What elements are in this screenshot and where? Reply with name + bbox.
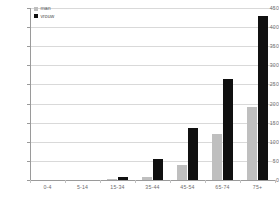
- bar-vrouw[interactable]: [223, 79, 233, 180]
- x-axis-tick-mark: [240, 180, 241, 183]
- x-axis-labels: 0-45-1415-3435-4445-5465-7475+: [30, 184, 275, 190]
- legend-label-man: man: [41, 5, 51, 13]
- x-axis-tick-mark: [100, 180, 101, 183]
- x-axis-tick-mark: [170, 180, 171, 183]
- legend-item-vrouw[interactable]: vrouw: [34, 13, 54, 21]
- x-axis-tick-label: 15-34: [100, 184, 135, 190]
- bar-group: [170, 8, 205, 180]
- x-axis-tick-mark: [30, 180, 31, 183]
- x-axis-line: [30, 180, 275, 181]
- chart-legend: man vrouw: [34, 5, 54, 20]
- bar-man[interactable]: [142, 177, 152, 180]
- bar-vrouw[interactable]: [118, 177, 128, 180]
- bar-man[interactable]: [107, 179, 117, 180]
- bar-groups: [30, 8, 275, 180]
- x-axis-tick-mark: [275, 180, 276, 183]
- legend-label-vrouw: vrouw: [41, 13, 55, 21]
- x-axis-tick-mark: [205, 180, 206, 183]
- legend-swatch-man-icon: [34, 7, 38, 11]
- bar-vrouw[interactable]: [153, 159, 163, 180]
- bar-man[interactable]: [212, 134, 222, 180]
- x-axis-tick-mark: [65, 180, 66, 183]
- x-axis-tick-label: 75+: [240, 184, 275, 190]
- x-axis-tick-mark: [135, 180, 136, 183]
- x-axis-tick-label: 0-4: [30, 184, 65, 190]
- bar-vrouw[interactable]: [188, 128, 198, 180]
- bar-group: [30, 8, 65, 180]
- legend-item-man[interactable]: man: [34, 5, 54, 13]
- x-axis-tick-label: 65-74: [205, 184, 240, 190]
- legend-swatch-vrouw-icon: [34, 14, 38, 18]
- bar-group: [65, 8, 100, 180]
- bar-man[interactable]: [247, 107, 257, 180]
- x-axis-tick-label: 35-44: [135, 184, 170, 190]
- bar-chart: 450400350300250200150100500 0-45-1415-34…: [0, 0, 279, 199]
- x-axis-tick-label: 5-14: [65, 184, 100, 190]
- bar-group: [100, 8, 135, 180]
- bar-vrouw[interactable]: [258, 16, 268, 180]
- bar-group: [240, 8, 275, 180]
- bar-group: [135, 8, 170, 180]
- x-axis-tick-label: 45-54: [170, 184, 205, 190]
- bar-man[interactable]: [177, 165, 187, 180]
- bar-group: [205, 8, 240, 180]
